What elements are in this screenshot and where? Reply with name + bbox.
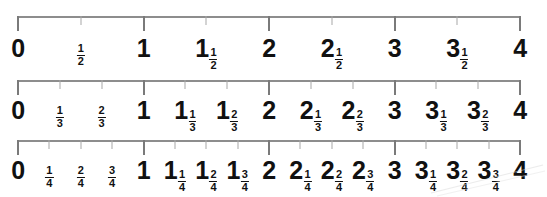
tick-label: 314 [415, 158, 437, 194]
label-whole-part: 2 [289, 158, 303, 183]
fraction-denominator: 4 [77, 178, 85, 190]
fraction-denominator: 2 [77, 56, 85, 68]
label-whole-part: 4 [513, 158, 527, 183]
tick-label: 124 [195, 158, 217, 194]
tick-label: 0 [11, 98, 25, 123]
label-whole-part: 0 [11, 98, 25, 123]
tick-label: 14 [45, 163, 53, 187]
fraction-numerator: 1 [56, 105, 64, 117]
tick-label: 34 [108, 163, 116, 187]
tick-label: 334 [478, 158, 500, 194]
label-whole-part: 1 [137, 36, 151, 61]
tick-label: 312 [446, 36, 468, 72]
tick-label: 313 [425, 98, 447, 134]
number-line-thirds: 013231113123221322333133234 [0, 72, 541, 128]
fraction-denominator: 4 [335, 182, 343, 194]
fraction-numerator: 2 [481, 109, 489, 121]
label-whole-part: 3 [446, 36, 460, 61]
axis-labels: 01424341114124134221422423433143243344 [0, 132, 541, 190]
fraction-numerator: 3 [241, 169, 249, 181]
fraction-denominator: 4 [178, 182, 186, 194]
fraction-numerator: 2 [460, 169, 468, 181]
tick-label: 3 [388, 98, 402, 123]
tick-label: 224 [321, 158, 343, 194]
label-whole-part: 1 [137, 158, 151, 183]
label-whole-part: 3 [425, 98, 439, 123]
label-whole-part: 4 [513, 36, 527, 61]
label-fraction: 34 [492, 169, 500, 193]
fraction-denominator: 4 [366, 182, 374, 194]
tick-label: 112 [195, 36, 217, 72]
label-whole-part: 3 [415, 158, 429, 183]
fraction-numerator: 1 [45, 165, 53, 177]
tick-label: 23 [98, 103, 106, 127]
tick-label: 324 [446, 158, 468, 194]
label-fraction: 12 [209, 47, 217, 71]
tick-label: 223 [342, 98, 364, 134]
label-whole-part: 3 [467, 98, 481, 123]
label-fraction: 24 [77, 165, 85, 189]
fraction-numerator: 3 [492, 169, 500, 181]
label-whole-part: 2 [262, 98, 276, 123]
label-fraction: 14 [429, 169, 437, 193]
label-fraction: 13 [314, 109, 322, 133]
fraction-denominator: 2 [209, 60, 217, 72]
label-whole-part: 3 [388, 36, 402, 61]
fraction-numerator: 2 [356, 109, 364, 121]
tick-label: 1 [137, 36, 151, 61]
fraction-numerator: 1 [178, 169, 186, 181]
tick-label: 1 [137, 158, 151, 183]
tick-label: 4 [513, 36, 527, 61]
tick-label: 113 [174, 98, 196, 134]
fraction-numerator: 1 [188, 109, 196, 121]
label-whole-part: 0 [11, 36, 25, 61]
number-line-worksheet: 0121112221233124013231113123221322333133… [0, 0, 541, 193]
label-fraction: 12 [460, 47, 468, 71]
label-whole-part: 2 [300, 98, 314, 123]
fraction-numerator: 1 [439, 109, 447, 121]
fraction-numerator: 1 [314, 109, 322, 121]
fraction-denominator: 4 [460, 182, 468, 194]
label-fraction: 13 [439, 109, 447, 133]
label-whole-part: 3 [388, 158, 402, 183]
fraction-denominator: 2 [335, 60, 343, 72]
tick-label: 114 [164, 158, 186, 194]
fraction-numerator: 3 [108, 165, 116, 177]
tick-label: 234 [352, 158, 374, 194]
label-fraction: 13 [188, 109, 196, 133]
tick-label: 3 [388, 36, 402, 61]
label-whole-part: 1 [227, 158, 241, 183]
label-fraction: 14 [178, 169, 186, 193]
fraction-numerator: 1 [335, 47, 343, 59]
fraction-denominator: 2 [460, 60, 468, 72]
tick-label: 323 [467, 98, 489, 134]
tick-label: 12 [77, 41, 85, 65]
fraction-numerator: 2 [98, 105, 106, 117]
fraction-numerator: 3 [366, 169, 374, 181]
fraction-denominator: 3 [56, 118, 64, 130]
fraction-denominator: 4 [492, 182, 500, 194]
label-fraction: 12 [335, 47, 343, 71]
tick-label: 212 [321, 36, 343, 72]
fraction-denominator: 4 [209, 182, 217, 194]
axis-labels: 013231113123221322333133234 [0, 72, 541, 128]
label-fraction: 23 [481, 109, 489, 133]
fraction-denominator: 4 [241, 182, 249, 194]
label-whole-part: 3 [478, 158, 492, 183]
label-whole-part: 1 [195, 158, 209, 183]
fraction-numerator: 2 [230, 109, 238, 121]
tick-label: 1 [137, 98, 151, 123]
tick-label: 24 [77, 163, 85, 187]
label-whole-part: 2 [262, 158, 276, 183]
fraction-numerator: 1 [209, 47, 217, 59]
fraction-numerator: 1 [304, 169, 312, 181]
label-whole-part: 2 [262, 36, 276, 61]
tick-label: 0 [11, 36, 25, 61]
label-whole-part: 1 [195, 36, 209, 61]
label-whole-part: 4 [513, 98, 527, 123]
label-fraction: 24 [335, 169, 343, 193]
label-fraction: 14 [45, 165, 53, 189]
fraction-numerator: 2 [335, 169, 343, 181]
tick-label: 123 [216, 98, 238, 134]
label-fraction: 24 [209, 169, 217, 193]
